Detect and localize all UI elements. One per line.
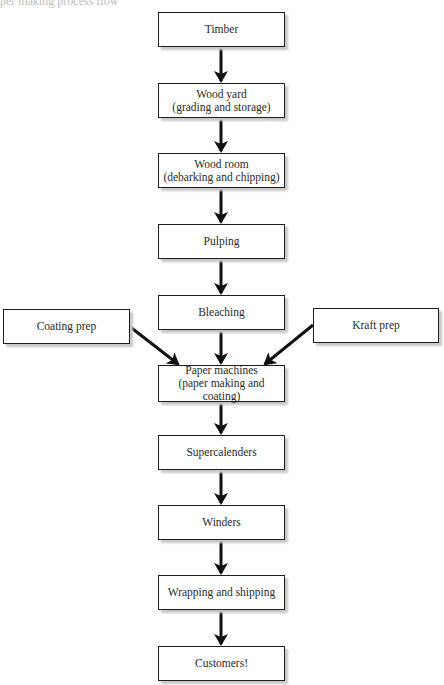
node-sublabel: (grading and storage)	[172, 101, 270, 114]
node-label: Wrapping and shipping	[168, 586, 276, 599]
node-label: Bleaching	[198, 306, 245, 319]
node-winders: Winders	[158, 505, 285, 540]
node-label: Paper machines	[185, 364, 258, 377]
node-label: Wood room	[194, 158, 248, 171]
node-wood-yard: Wood yard (grading and storage)	[158, 83, 285, 118]
node-label: Pulping	[204, 235, 240, 248]
node-label: Customers!	[195, 657, 248, 670]
arrow-kraftprep-to-papermachines	[265, 325, 313, 364]
node-sublabel: (debarking and chipping)	[163, 171, 279, 184]
node-pulping: Pulping	[158, 224, 285, 259]
node-label: Winders	[202, 516, 241, 529]
node-label: Coating prep	[37, 320, 97, 333]
node-supercalenders: Supercalenders	[158, 435, 285, 470]
node-customers: Customers!	[158, 646, 285, 681]
node-kraft-prep: Kraft prep	[313, 308, 439, 343]
arrow-coatingprep-to-papermachines	[129, 326, 178, 364]
node-wrapping-and-shipping: Wrapping and shipping	[158, 575, 285, 610]
node-label: Timber	[205, 23, 238, 36]
node-wood-room: Wood room (debarking and chipping)	[158, 153, 285, 188]
node-label: Kraft prep	[352, 319, 400, 332]
node-label: Wood yard	[196, 88, 247, 101]
node-sublabel: (paper making and coating)	[159, 377, 284, 403]
node-coating-prep: Coating prep	[3, 309, 130, 344]
node-timber: Timber	[158, 12, 285, 47]
node-label: Supercalenders	[186, 446, 256, 459]
node-paper-machines: Paper machines (paper making and coating…	[158, 365, 285, 402]
node-bleaching: Bleaching	[158, 295, 285, 330]
